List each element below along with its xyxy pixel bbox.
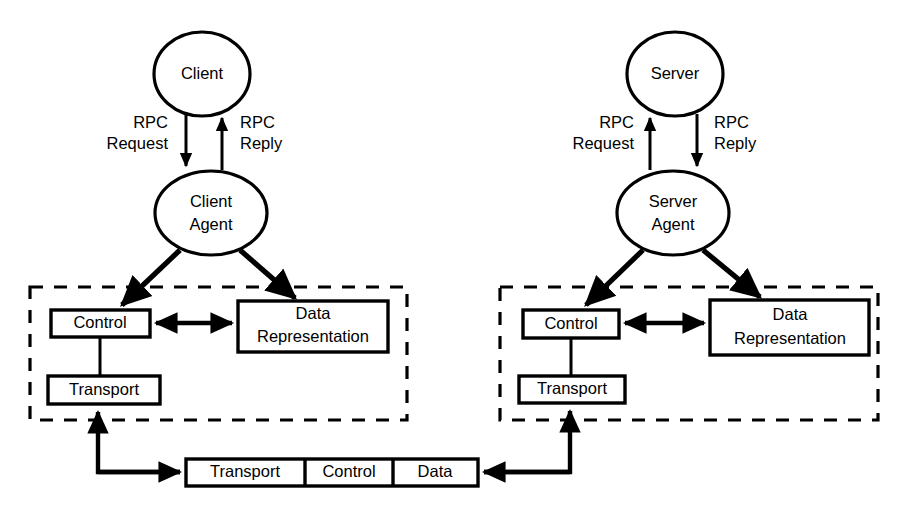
client-rpc-reply-line2: Reply	[240, 134, 283, 152]
right-data-representation-line2: Representation	[734, 329, 846, 347]
left-data-representation-line1: Data	[296, 304, 332, 322]
right-data-representation-line1: Data	[773, 305, 809, 323]
client-node: Client	[154, 32, 250, 116]
right-transport-label: Transport	[537, 379, 607, 397]
server-agent-node: Server Agent	[617, 171, 729, 255]
packet-field-control: Control	[322, 462, 375, 480]
packet-frame: Transport Control Data	[186, 459, 478, 486]
rpc-layering-diagram: Client Client Agent RPC Request RPC Repl…	[0, 0, 902, 513]
client-label: Client	[181, 64, 224, 82]
left-transport-box: Transport	[48, 376, 160, 404]
server-agent-circle	[617, 171, 729, 255]
server-node: Server	[627, 32, 723, 116]
client-rpc-request-line2: Request	[107, 134, 169, 152]
packet-field-transport: Transport	[210, 462, 280, 480]
server-rpc-reply-line2: Reply	[714, 134, 757, 152]
client-agent-circle	[155, 171, 267, 255]
left-data-representation-line2: Representation	[257, 327, 369, 345]
server-agent-to-control-arrow	[586, 250, 643, 305]
client-agent-label-line2: Agent	[189, 215, 233, 233]
left-data-representation-box: Data Representation	[238, 301, 388, 352]
server-rpc-request-line1: RPC	[599, 113, 634, 131]
server-agent-to-data-arrow	[703, 250, 760, 297]
right-transport-box: Transport	[519, 376, 625, 403]
server-agent-label-line2: Agent	[651, 215, 695, 233]
diagram-page: Client Client Agent RPC Request RPC Repl…	[0, 0, 902, 513]
client-agent-to-data-arrow	[240, 250, 295, 298]
client-agent-label-line1: Client	[190, 192, 233, 210]
client-agent-node: Client Agent	[155, 171, 267, 255]
right-control-label: Control	[544, 314, 597, 332]
server-label: Server	[651, 64, 700, 82]
right-data-representation-box: Data Representation	[710, 300, 869, 355]
client-rpc-reply-line1: RPC	[240, 113, 275, 131]
left-control-box: Control	[51, 310, 150, 337]
server-rpc-request-line2: Request	[573, 134, 635, 152]
packet-field-data: Data	[418, 462, 454, 480]
left-control-label: Control	[73, 313, 126, 331]
server-rpc-reply-line1: RPC	[714, 113, 749, 131]
left-transport-label: Transport	[69, 380, 139, 398]
right-control-box: Control	[523, 310, 619, 338]
client-rpc-request-line1: RPC	[133, 113, 168, 131]
right-transport-packet-connector	[484, 411, 570, 472]
server-agent-label-line1: Server	[649, 192, 698, 210]
client-agent-to-control-arrow	[122, 250, 180, 305]
